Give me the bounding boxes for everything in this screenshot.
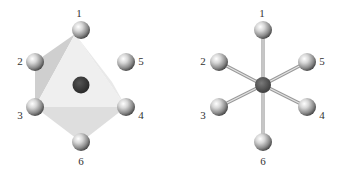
position-label-3: 3 — [200, 109, 206, 121]
position-label-1: 1 — [76, 7, 82, 19]
position-label-5: 5 — [319, 55, 325, 67]
position-label-1: 1 — [259, 7, 265, 19]
position-label-5: 5 — [138, 55, 144, 67]
ligand-ball-4 — [117, 98, 135, 116]
central-metal-atom — [255, 77, 271, 93]
position-label-4: 4 — [138, 109, 144, 121]
ligand-ball-6 — [254, 133, 272, 151]
position-label-6: 6 — [260, 155, 266, 167]
position-label-6: 6 — [78, 155, 84, 167]
ligand-ball-6 — [72, 133, 90, 151]
octahedral-geometry-figure: 1 2 3 4 5 6 1 2 3 4 — [0, 0, 341, 176]
central-metal-atom — [73, 77, 90, 94]
ligand-ball-1 — [72, 21, 90, 39]
ball-and-stick-octahedron: 1 2 3 4 5 6 — [200, 7, 325, 167]
ligand-ball-3 — [26, 98, 44, 116]
ligand-ball-5 — [117, 53, 135, 71]
ligand-ball-4 — [298, 98, 316, 116]
ligand-ball-2 — [210, 53, 228, 71]
polyhedral-octahedron: 1 2 3 4 5 6 — [17, 7, 144, 167]
ligand-ball-1 — [254, 21, 272, 39]
position-label-3: 3 — [17, 109, 23, 121]
ligand-ball-3 — [210, 98, 228, 116]
position-label-2: 2 — [200, 55, 206, 67]
position-label-2: 2 — [17, 55, 23, 67]
ligand-ball-2 — [26, 53, 44, 71]
position-label-4: 4 — [319, 109, 325, 121]
ligand-ball-5 — [298, 53, 316, 71]
